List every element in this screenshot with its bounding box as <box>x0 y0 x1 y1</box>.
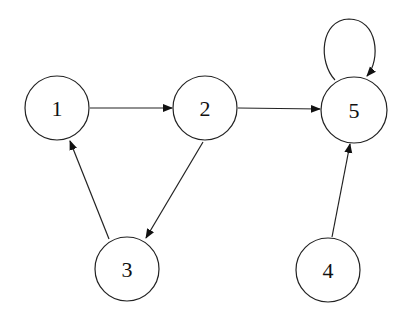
edge-2-to-3 <box>146 142 203 238</box>
node-1: 1 <box>25 76 89 140</box>
node-3-label: 3 <box>122 257 133 282</box>
graph-canvas: 1 2 5 3 4 <box>0 0 410 316</box>
edge-3-to-1 <box>70 141 109 239</box>
node-5-label: 5 <box>349 98 360 123</box>
edge-2-to-5 <box>238 108 320 109</box>
node-2: 2 <box>173 76 237 140</box>
node-2-label: 2 <box>200 96 211 121</box>
edge-4-to-5 <box>332 144 350 237</box>
node-4: 4 <box>296 238 360 302</box>
node-5: 5 <box>321 77 387 143</box>
node-3: 3 <box>95 237 159 301</box>
node-1-label: 1 <box>52 96 63 121</box>
graph-svg: 1 2 5 3 4 <box>0 0 410 316</box>
node-4-label: 4 <box>323 258 334 283</box>
edge-5-self-loop <box>324 19 375 80</box>
